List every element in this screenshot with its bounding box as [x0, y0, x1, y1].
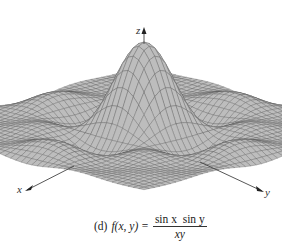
- surface-plot: [0, 0, 282, 210]
- z-axis: [142, 27, 147, 44]
- numerator: sin x sin y: [153, 213, 207, 227]
- denominator: xy: [175, 227, 185, 240]
- x-axis: [25, 166, 74, 191]
- caption-label: (d): [94, 220, 107, 232]
- z-axis-label: z: [136, 25, 140, 36]
- y-axis-label: y: [265, 187, 270, 198]
- x-axis-label: x: [17, 184, 22, 195]
- function-lhs: f(x, y) =: [111, 220, 148, 232]
- figure-caption: (d) f(x, y) = sin x sin y xy: [0, 206, 282, 246]
- surface-mesh: [0, 42, 282, 190]
- fraction: sin x sin y xy: [153, 213, 207, 240]
